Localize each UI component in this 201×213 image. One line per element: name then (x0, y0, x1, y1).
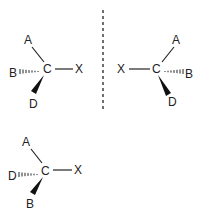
atom-label: A (24, 33, 32, 47)
atom-label: C (43, 62, 52, 76)
molecule-left: A C X B D (9, 33, 83, 111)
wedge-bond-d (158, 75, 171, 96)
atom-label: C (41, 164, 50, 178)
bond-a (162, 47, 174, 62)
atom-label: D (29, 97, 38, 111)
atom-label: D (8, 169, 17, 183)
atom-label: B (185, 67, 193, 81)
atom-label: A (22, 135, 30, 149)
bond-a (31, 149, 42, 163)
hashed-bond-d (19, 172, 37, 177)
hashed-bond-b (20, 69, 38, 74)
atom-label: X (74, 163, 82, 177)
molecule-bottom: A C X D B (8, 135, 82, 211)
atom-label: D (168, 95, 177, 109)
bond-a (32, 47, 44, 62)
atom-label: A (172, 33, 180, 47)
wedge-bond-b (30, 177, 43, 195)
wedge-bond-d (31, 75, 44, 94)
atom-label: B (9, 66, 17, 80)
atom-label: X (75, 62, 83, 76)
atom-label: X (117, 62, 125, 76)
stereochemistry-diagram: A C X B D A C X B D (0, 0, 201, 213)
atom-label: C (152, 62, 161, 76)
molecule-mirror-image: A C X B D (117, 33, 193, 109)
hashed-bond-b (165, 69, 183, 74)
atom-label: B (26, 197, 34, 211)
